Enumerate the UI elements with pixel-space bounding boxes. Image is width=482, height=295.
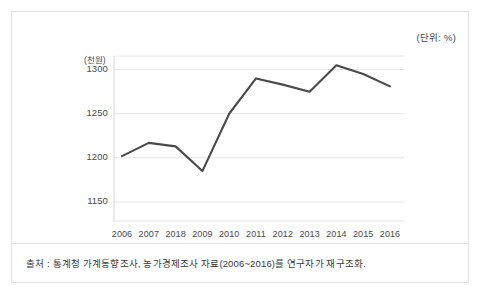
x-axis-tick-label: 2015 <box>353 229 373 239</box>
gridlines <box>114 56 404 202</box>
x-axis-tick-label: 2009 <box>192 229 212 239</box>
x-axis-tick-label: 2014 <box>326 229 346 239</box>
x-axis-tick-label: 2010 <box>219 229 239 239</box>
source-note-row: 출처 : 통계청 가계동향조사, 농가경제조사 자료(2006~2016)를 연… <box>12 243 468 282</box>
x-axis-tick-label: 2016 <box>380 229 400 239</box>
y-axis-tick-label: 1150 <box>74 195 108 206</box>
y-axis-tick-label: 1250 <box>74 107 108 118</box>
chart-plot-svg <box>12 12 470 244</box>
x-axis-tick-label: 2018 <box>165 229 185 239</box>
x-axis-tick-label: 2007 <box>139 229 159 239</box>
y-axis-tick-label: 1200 <box>74 151 108 162</box>
x-axis-tick-label: 2011 <box>246 229 266 239</box>
y-axis-tick-label: 1300 <box>74 63 108 74</box>
source-note: 출처 : 통계청 가계동향조사, 농가경제조사 자료(2006~2016)를 연… <box>12 256 366 270</box>
line-chart: (천원) 1300125012001150 200620072018200920… <box>12 12 470 244</box>
data-series-line <box>122 65 390 171</box>
axis-lines <box>114 56 404 221</box>
x-axis-tick-label: 2012 <box>273 229 293 239</box>
x-axis-tick-label: 2006 <box>112 229 132 239</box>
figure-frame: (단위: %) (천원) 1300125012001150 2006200720… <box>11 11 469 283</box>
x-axis-tick-label: 2013 <box>299 229 319 239</box>
